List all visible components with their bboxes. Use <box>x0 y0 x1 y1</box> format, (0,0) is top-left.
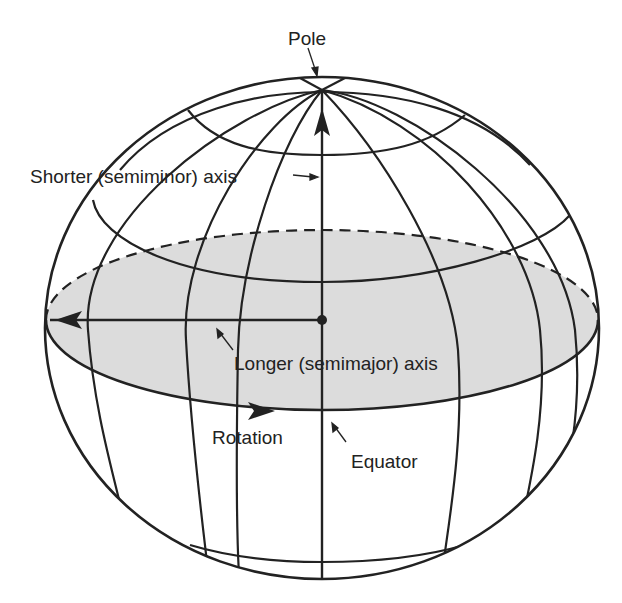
semiminor-leader-arrowhead-icon <box>310 174 318 180</box>
ellipsoid-svg: Pole Shorter (semiminor) axis Longer (se… <box>0 0 622 603</box>
meridian-rear <box>300 78 322 90</box>
semimajor-axis-label: Longer (semimajor) axis <box>234 353 438 374</box>
equator-label: Equator <box>351 451 418 472</box>
parallel-lower <box>190 545 465 562</box>
semiminor-axis-label: Shorter (semiminor) axis <box>30 166 237 187</box>
rotation-label: Rotation <box>212 427 283 448</box>
pole-label: Pole <box>288 28 326 49</box>
meridian-rear <box>322 78 345 90</box>
pole-leader-arrowhead-icon <box>312 67 318 76</box>
ellipsoid-diagram: Pole Shorter (semiminor) axis Longer (se… <box>0 0 622 603</box>
center-point <box>317 315 327 325</box>
